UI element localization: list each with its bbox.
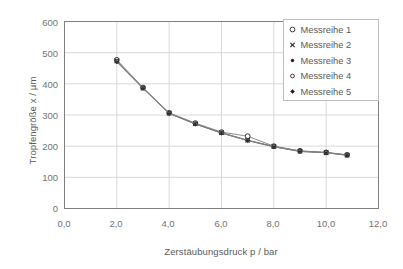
data-point — [272, 145, 276, 149]
legend-item-4[interactable]: Messreihe 4 — [291, 71, 352, 81]
legend-label: Messreihe 4 — [301, 71, 352, 81]
data-point — [219, 131, 223, 135]
data-point — [298, 149, 302, 153]
legend-marker-icon — [290, 89, 294, 93]
data-point — [345, 153, 349, 157]
data-point — [141, 86, 145, 90]
plot-area: Messreihe 1Messreihe 2Messreihe 3Messrei… — [0, 0, 403, 269]
legend-marker-icon — [291, 74, 295, 78]
data-point — [115, 60, 119, 64]
chart-container: Tropfengröße x / µm Zerstäubungsdruck p … — [0, 0, 403, 269]
legend-label: Messreihe 3 — [301, 56, 352, 66]
legend-marker-icon — [291, 59, 294, 62]
data-point — [193, 122, 197, 126]
data-point — [324, 151, 328, 155]
data-point — [167, 111, 171, 115]
legend-label: Messreihe 1 — [301, 25, 352, 35]
data-point — [245, 138, 249, 142]
legend-marker-icon — [290, 27, 295, 32]
chart-legend[interactable]: Messreihe 1Messreihe 2Messreihe 3Messrei… — [284, 20, 379, 101]
legend-item-3[interactable]: Messreihe 3 — [291, 56, 351, 66]
legend-label: Messreihe 2 — [301, 40, 352, 50]
legend-label: Messreihe 5 — [301, 87, 352, 97]
